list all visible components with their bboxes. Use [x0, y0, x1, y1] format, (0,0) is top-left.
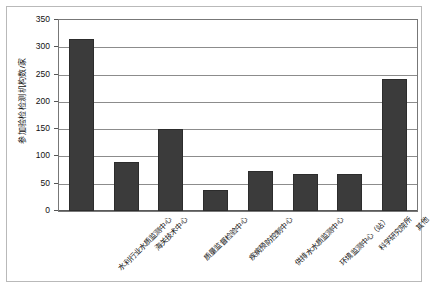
y-axis-tick-label: 0 [16, 206, 50, 214]
y-axis-tick-label: 250 [16, 70, 50, 78]
bar [203, 190, 228, 211]
x-axis-tick-label: 其他 [412, 214, 430, 232]
bar [158, 129, 183, 211]
x-axis-tick-label: 海关技术中心 [152, 214, 190, 252]
gridline [59, 47, 417, 48]
x-axis-tick-label: 供排水水质监测中心 [292, 214, 346, 268]
x-axis-tick-label: 环境监测中心（站） [337, 214, 391, 268]
bar [69, 39, 94, 211]
bar [293, 174, 318, 211]
bar [114, 162, 139, 211]
gridline [59, 102, 417, 103]
bar [382, 79, 407, 211]
plot-area [58, 19, 418, 212]
y-axis-tick-label: 350 [16, 15, 50, 23]
x-axis-tick-label: 质量监督检验中心 [201, 214, 250, 263]
y-axis-tick-label: 50 [16, 179, 50, 187]
gridline [59, 75, 417, 76]
gridline [59, 129, 417, 130]
x-axis-tick-label: 水利行业水质监测中心 [115, 214, 174, 273]
bar [337, 174, 362, 211]
y-axis-tick-label: 100 [16, 151, 50, 159]
y-axis-tick-label: 150 [16, 124, 50, 132]
x-axis-tick-label: 科学研究院所 [376, 214, 414, 252]
chart-figure: 参加验检检测机构数/家 050100150200250300350 水利行业水质… [6, 6, 422, 282]
gridline [59, 156, 417, 157]
y-axis-tick-label: 300 [16, 42, 50, 50]
x-axis-tick-label: 疾病预防控制中心 [245, 214, 294, 263]
y-axis-tick-label: 200 [16, 97, 50, 105]
bar [248, 171, 273, 211]
